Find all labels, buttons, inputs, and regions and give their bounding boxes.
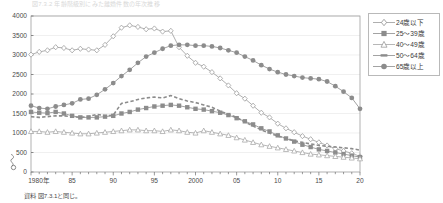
x-tick-label: 95 xyxy=(151,177,159,184)
data-point xyxy=(177,42,182,47)
data-point xyxy=(119,111,123,115)
axis-break-icon xyxy=(11,154,14,166)
data-point xyxy=(128,110,132,114)
y-tick-label: 500 xyxy=(16,149,27,156)
data-point xyxy=(45,48,50,53)
y-tick-label: 3000 xyxy=(12,51,27,58)
data-point xyxy=(37,106,42,111)
x-tick-label: 85 xyxy=(68,177,76,184)
data-point xyxy=(300,75,305,80)
legend-item[interactable]: 40〜49歳 xyxy=(372,39,437,50)
data-point xyxy=(53,45,58,50)
data-point xyxy=(316,140,321,145)
data-point xyxy=(78,46,83,51)
data-point xyxy=(201,128,206,133)
chart-legend: 24歳以下 25〜39歳 40〜49歳 50〜64歳 65歳以上 xyxy=(368,13,440,76)
data-point xyxy=(325,79,330,84)
data-point xyxy=(144,54,149,59)
data-point xyxy=(333,84,338,89)
legend-marker-open-triangle xyxy=(372,39,396,50)
data-point xyxy=(152,50,157,55)
legend-marker-open-diamond xyxy=(372,17,396,28)
legend-item[interactable]: 65歳以上 xyxy=(372,61,437,72)
chart-figure: 図7.3.2 年齢階級別にみた離婚件数の年次推移 050010001500200… xyxy=(0,0,443,203)
data-point xyxy=(86,96,91,101)
data-point xyxy=(37,49,42,54)
data-point xyxy=(127,67,132,72)
data-point xyxy=(62,103,67,108)
data-point xyxy=(259,63,264,68)
x-tick-label: 15 xyxy=(315,177,323,184)
y-tick-label: 1500 xyxy=(12,110,27,117)
data-point xyxy=(45,111,49,115)
data-point xyxy=(193,107,197,111)
data-point xyxy=(308,137,313,142)
data-point xyxy=(292,130,297,135)
data-point xyxy=(267,67,272,72)
x-tick-label: 20 xyxy=(356,177,364,184)
data-point xyxy=(111,81,116,86)
data-point xyxy=(210,44,215,49)
data-point xyxy=(251,58,256,63)
data-point xyxy=(341,89,346,94)
data-point xyxy=(29,103,34,108)
data-point xyxy=(45,106,50,111)
x-tick-label: 1980年 xyxy=(28,176,50,185)
data-point xyxy=(53,104,58,109)
legend-item[interactable]: 24歳以下 xyxy=(372,17,437,28)
data-point xyxy=(29,110,33,114)
data-point xyxy=(53,129,58,134)
data-point xyxy=(160,104,164,108)
data-point xyxy=(136,24,141,29)
data-point xyxy=(316,77,321,82)
legend-item[interactable]: 50〜64歳 xyxy=(372,50,437,61)
legend-marker-filled-circle xyxy=(372,61,396,72)
legend-label: 24歳以下 xyxy=(396,17,424,28)
data-point xyxy=(86,47,91,52)
y-tick-label: 2000 xyxy=(12,90,27,97)
data-point xyxy=(168,28,173,33)
data-point xyxy=(94,48,99,53)
data-point xyxy=(177,104,181,108)
data-point xyxy=(234,50,239,55)
data-point xyxy=(29,52,34,57)
data-point xyxy=(308,145,312,149)
y-tick-label: 0 xyxy=(23,168,27,175)
data-point xyxy=(267,115,272,120)
data-point xyxy=(185,105,189,109)
data-point xyxy=(300,134,305,139)
data-point xyxy=(242,54,247,59)
data-point xyxy=(292,74,297,79)
y-tick-label: 4000 xyxy=(12,12,27,19)
data-point xyxy=(168,127,173,132)
data-point xyxy=(37,111,41,115)
data-point xyxy=(62,111,66,115)
data-point xyxy=(119,74,124,79)
data-point xyxy=(202,107,206,111)
data-point xyxy=(152,26,157,31)
legend-item[interactable]: 25〜39歳 xyxy=(372,28,437,39)
data-point xyxy=(275,121,280,126)
data-point xyxy=(168,43,173,48)
x-tick-label: 90 xyxy=(110,177,118,184)
data-point xyxy=(94,92,99,97)
series-4 xyxy=(29,42,363,111)
data-point xyxy=(210,109,214,113)
source-note: 資料 図7.3.1と同じ。 xyxy=(24,191,81,200)
data-point xyxy=(218,46,223,51)
data-point xyxy=(275,70,280,75)
x-tick-label: 05 xyxy=(233,177,241,184)
x-tick-label: 10 xyxy=(274,177,282,184)
y-tick-label: 2500 xyxy=(12,71,27,78)
data-point xyxy=(144,27,149,32)
data-point xyxy=(152,104,156,108)
data-point xyxy=(160,29,165,34)
data-point xyxy=(53,110,57,114)
data-point xyxy=(169,103,173,107)
x-tick-label: 2000 xyxy=(188,177,203,184)
data-point xyxy=(284,126,289,131)
y-tick-label: 1000 xyxy=(12,129,27,136)
data-point xyxy=(136,60,141,65)
data-point xyxy=(185,42,190,47)
data-point xyxy=(160,46,165,51)
